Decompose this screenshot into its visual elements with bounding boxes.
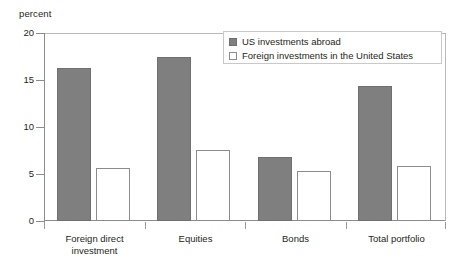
y-axis-tick-label: 5 [8,169,34,179]
y-axis-tick [36,174,45,175]
legend-item[interactable]: US investments abroad [229,35,441,48]
x-axis-category-label: Foreign directinvestment [44,233,145,257]
x-axis-category-label: Total portfolio [346,233,447,245]
y-axis-tick-label-wrap: 5 [0,169,34,179]
y-axis-tick-label: 20 [8,28,34,38]
y-axis-tick-label-wrap: 10 [0,122,34,132]
x-axis-tick [44,222,45,229]
y-axis-tick [36,127,45,128]
y-axis-tick [36,33,45,34]
x-axis-tick [346,222,347,229]
x-axis-category-label-line: Foreign direct [44,233,145,245]
x-axis-category-label-line: Equities [145,233,246,245]
bar [397,166,431,221]
x-axis-category-label: Equities [145,233,246,245]
y-axis-tick-label: 0 [8,216,34,226]
y-axis-tick-label-wrap: 0 [0,216,34,226]
y-axis-tick-label-wrap: 20 [0,28,34,38]
y-axis-tick-label: 15 [8,75,34,85]
filled-gray-square-icon [229,38,237,46]
bar [57,68,91,221]
bar [157,57,191,221]
legend-item-label: Foreign investments in the United States [242,51,413,61]
x-axis-tick [145,222,146,229]
bar-chart-figure: percent 05101520 Foreign directinvestmen… [0,0,451,274]
bar [358,86,392,221]
y-axis-title: percent [19,8,51,19]
x-axis-tick [245,222,246,229]
outlined-white-square-icon [229,52,237,60]
x-axis-category-label-line: Total portfolio [346,233,447,245]
y-axis-tick-label: 10 [8,122,34,132]
bar [96,168,130,221]
legend-item-label: US investments abroad [242,37,341,47]
y-axis-tick-label-wrap: 15 [0,75,34,85]
y-axis-tick [36,80,45,81]
x-axis-category-label-line: investment [44,245,145,257]
x-axis-category-label-line: Bonds [245,233,346,245]
x-axis-tick [445,222,446,229]
bar [196,150,230,221]
chart-legend: US investments abroad Foreign investment… [223,31,442,64]
legend-item[interactable]: Foreign investments in the United States [229,49,441,62]
bar [297,171,331,221]
bar [258,157,292,221]
x-axis-category-label: Bonds [245,233,346,245]
